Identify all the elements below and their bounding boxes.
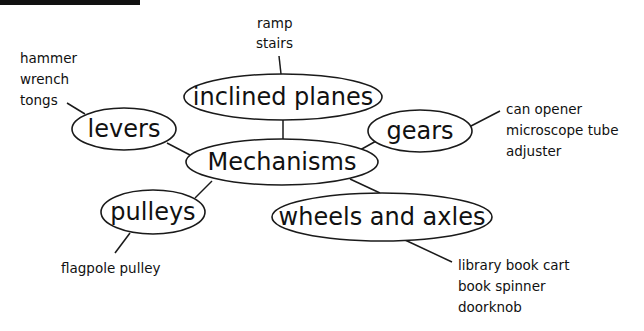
node-mechanisms[interactable]: Mechanisms [186, 139, 378, 185]
example-item: ramp [257, 15, 293, 31]
node-inclined-planes[interactable]: inclined planes [184, 74, 382, 120]
example-item: library book cart [458, 257, 569, 273]
header-bar [0, 0, 140, 5]
edge-pulleys-examples [115, 233, 130, 253]
examples-inclined-planes: ramp stairs [256, 15, 293, 51]
mind-map: Mechanisms inclined planes levers gears … [0, 0, 644, 331]
node-label: pulleys [110, 198, 195, 226]
example-item: doorknob [458, 299, 522, 315]
example-item: flagpole pulley [61, 260, 160, 276]
examples-gears: can opener microscope tube adjuster [506, 101, 618, 159]
edge-center-wheels [350, 179, 380, 193]
node-label: Mechanisms [208, 148, 357, 176]
edge-inclined-examples [279, 56, 281, 74]
example-item: tongs [20, 92, 58, 108]
examples-levers: hammer wrench tongs [20, 50, 77, 108]
node-pulleys[interactable]: pulleys [101, 190, 205, 234]
node-gears[interactable]: gears [368, 110, 472, 152]
edge-center-levers [167, 143, 190, 155]
edge-levers-examples [67, 103, 85, 114]
example-item: hammer [20, 50, 77, 66]
example-item: stairs [256, 35, 293, 51]
examples-wheels-and-axles: library book cart book spinner doorknob [458, 257, 569, 315]
examples-pulleys: flagpole pulley [61, 260, 160, 276]
edge-wheels-examples [405, 240, 452, 262]
node-label: levers [88, 115, 161, 143]
node-levers[interactable]: levers [72, 108, 176, 150]
example-item: book spinner [458, 278, 546, 294]
example-item: adjuster [506, 143, 562, 159]
example-item: wrench [20, 71, 69, 87]
edge-center-pulleys [195, 181, 212, 198]
example-item: microscope tube [506, 122, 618, 138]
node-label: wheels and axles [279, 203, 486, 231]
node-label: inclined planes [193, 83, 373, 111]
node-wheels-and-axles[interactable]: wheels and axles [272, 193, 492, 241]
example-item: can opener [506, 101, 583, 117]
edge-gears-examples [471, 111, 500, 126]
node-label: gears [386, 117, 453, 145]
